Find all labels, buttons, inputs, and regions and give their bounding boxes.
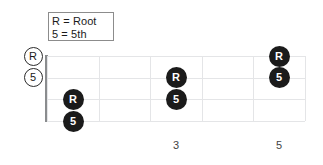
open-string-marker-5-string-2: 5 (24, 68, 43, 87)
open-string-marker-r-string-1: R (24, 47, 43, 66)
string-line-1 (47, 56, 305, 57)
note-dot-5-string-4-fret-1: 5 (63, 111, 84, 132)
legend-line-root: R = Root (52, 15, 113, 28)
note-dot-r-string-1-fret-5: R (269, 46, 290, 67)
legend-box: R = Root 5 = 5th (48, 12, 114, 41)
string-line-4 (47, 121, 305, 122)
fret-line-0 (47, 56, 48, 121)
fret-line-2 (150, 56, 151, 121)
note-dot-5-string-2-fret-5: 5 (269, 67, 290, 88)
note-dot-r-string-3-fret-1: R (63, 89, 84, 110)
fretboard-diagram: R = Root 5 = 5th R5 R5R5R5 35 (0, 0, 323, 165)
fret-number-label-3: 3 (173, 140, 179, 151)
fret-number-label-5: 5 (276, 140, 282, 151)
note-dot-5-string-3-fret-3: 5 (166, 89, 187, 110)
fret-line-3 (202, 56, 203, 121)
fret-line-4 (253, 56, 254, 121)
legend-line-fifth: 5 = 5th (52, 28, 113, 41)
note-dot-r-string-2-fret-3: R (166, 67, 187, 88)
fret-line-1 (99, 56, 100, 121)
fret-line-5 (305, 56, 306, 121)
